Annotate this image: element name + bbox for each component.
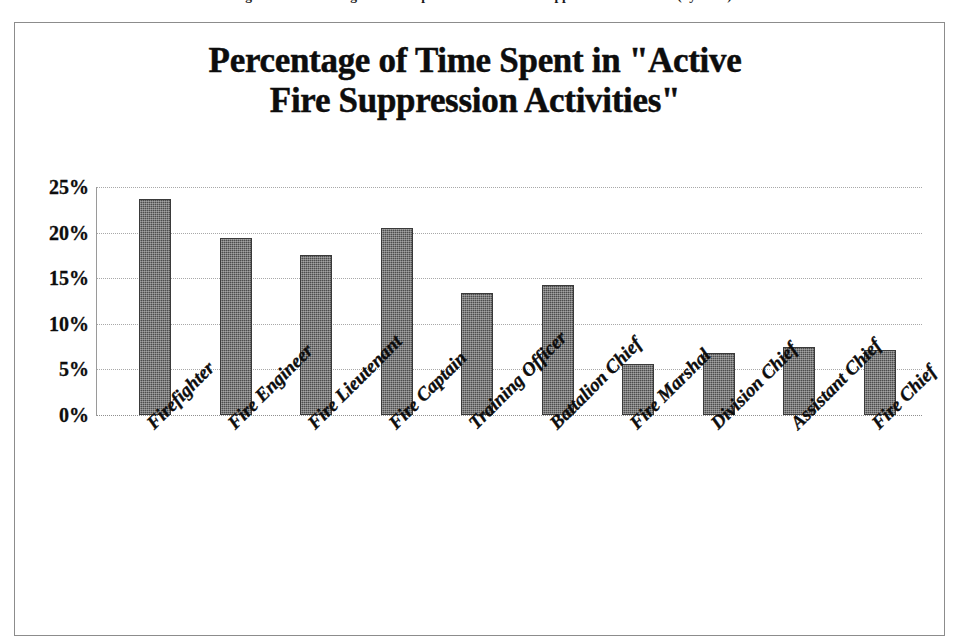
gridline [97, 187, 922, 188]
bar [381, 228, 413, 415]
chart-title: Percentage of Time Spent in "Active Fire… [45, 41, 905, 121]
y-axis-tick-label: 5% [27, 359, 89, 379]
y-axis-tick-label: 10% [27, 314, 89, 334]
y-axis-tick-label: 25% [27, 177, 89, 197]
y-axis-line [96, 187, 97, 416]
bar [139, 199, 171, 415]
chart-title-line-1: Percentage of Time Spent in "Active [45, 41, 905, 81]
figure-frame: Percentage of Time Spent in "Active Fire… [14, 22, 945, 636]
y-axis-tick-label: 20% [27, 223, 89, 243]
gridline [97, 233, 922, 234]
x-axis-category-labels: FirefighterFire EngineerFire LieutenantF… [97, 419, 937, 559]
y-axis-tick-label: 0% [27, 405, 89, 425]
bar [220, 238, 252, 415]
y-axis-tick-labels: 25%20%15%10%5%0% [21, 187, 89, 416]
bar [300, 255, 332, 415]
y-axis-tick-label: 15% [27, 268, 89, 288]
figure-caption-strip: Figure 3.3: Percentage of Time Spent in … [0, 0, 965, 3]
chart-title-line-2: Fire Suppression Activities" [45, 81, 905, 121]
figure-caption: Figure 3.3: Percentage of Time Spent in … [0, 0, 965, 3]
